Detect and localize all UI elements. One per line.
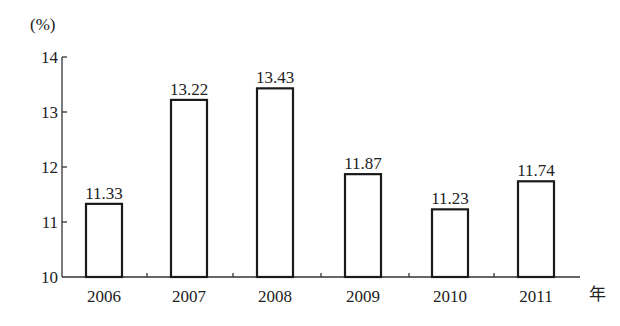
bar-2008 — [257, 88, 293, 277]
bar-2009 — [345, 174, 381, 277]
y-tick-label: 11 — [42, 213, 58, 232]
data-labels-group: 11.3313.2213.4311.8711.2311.74 — [85, 68, 555, 208]
y-tick-label: 12 — [41, 158, 58, 177]
data-label-2007: 13.22 — [170, 80, 208, 99]
x-tick-label-2010: 2010 — [433, 287, 467, 306]
x-tick-label-2011: 2011 — [519, 287, 552, 306]
data-label-2008: 13.43 — [256, 68, 294, 87]
data-label-2009: 11.87 — [344, 154, 382, 173]
y-tick-label: 10 — [41, 268, 58, 287]
x-axis-unit-label: 年 — [589, 285, 606, 304]
x-tick-label-2009: 2009 — [346, 287, 380, 306]
bar-2007 — [171, 100, 207, 277]
bars-group — [86, 88, 554, 277]
bar-2010 — [432, 209, 468, 277]
y-tick-label: 13 — [41, 103, 58, 122]
data-label-2006: 11.33 — [85, 184, 123, 203]
y-tick-label: 14 — [41, 48, 59, 67]
category-labels-group: 200620072008200920102011 — [87, 287, 553, 306]
bar-2006 — [86, 204, 122, 277]
y-axis-unit-label: (%) — [30, 15, 55, 34]
data-label-2011: 11.74 — [517, 161, 555, 180]
bar-2011 — [518, 181, 554, 277]
x-tick-label-2006: 2006 — [87, 287, 121, 306]
bar-chart: (%) 1011121314 11.3313.2213.4311.8711.23… — [0, 0, 620, 326]
data-label-2010: 11.23 — [431, 189, 469, 208]
x-tick-label-2008: 2008 — [258, 287, 292, 306]
x-tick-label-2007: 2007 — [172, 287, 207, 306]
y-axis-ticks: 1011121314 — [41, 48, 67, 287]
